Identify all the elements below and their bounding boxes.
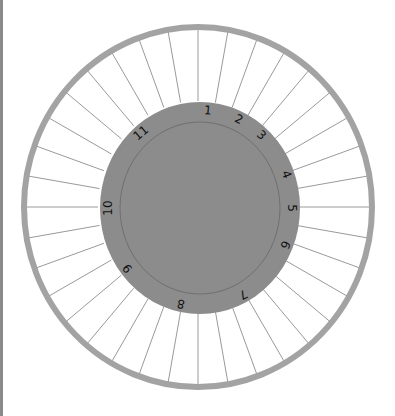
dial-label-5: 5	[285, 204, 299, 212]
dial-label-1: 1	[204, 103, 213, 118]
spoke-line	[34, 145, 104, 170]
spoke-line	[296, 176, 369, 189]
center-disc[interactable]	[100, 102, 300, 314]
spoke-line	[292, 243, 362, 268]
spoke-line	[138, 307, 163, 377]
spoke-line	[27, 225, 100, 238]
spoke-line	[215, 30, 228, 103]
dial-label-10: 10	[101, 200, 115, 215]
rotary-dial: 1234567891011	[0, 0, 395, 416]
spoke-line	[138, 38, 163, 108]
spoke-line	[232, 307, 257, 377]
spoke-line	[296, 225, 369, 238]
spoke-line	[232, 38, 257, 108]
spoke-line	[168, 311, 181, 384]
spoke-line	[34, 243, 104, 268]
spoke-line	[168, 30, 181, 103]
spoke-line	[27, 176, 100, 189]
spoke-line	[215, 311, 228, 384]
spoke-line	[292, 145, 362, 170]
